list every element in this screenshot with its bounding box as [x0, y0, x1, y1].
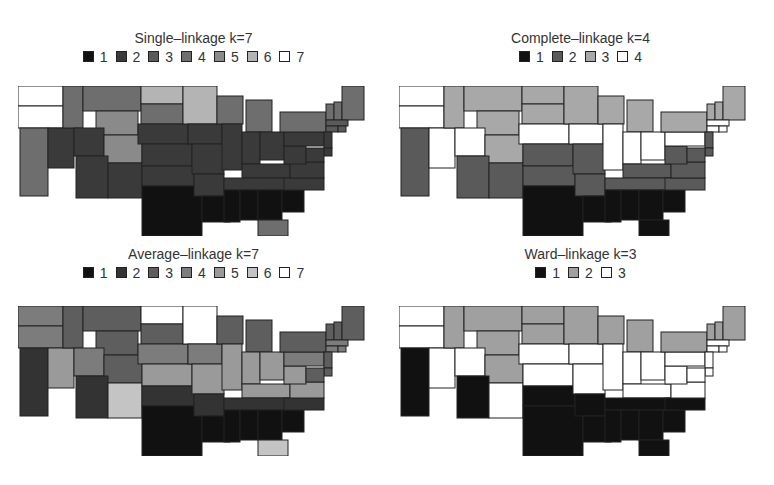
legend-item: 2	[552, 49, 577, 65]
state-ny	[661, 332, 707, 352]
state-tx	[523, 186, 583, 236]
state-sd	[141, 324, 183, 344]
legend-item: 3	[148, 49, 173, 65]
state-me	[723, 306, 745, 340]
legend-item: 1	[535, 265, 560, 281]
legend-swatch	[552, 51, 563, 62]
state-ca	[20, 128, 48, 196]
state-md	[306, 148, 324, 162]
state-mi	[246, 320, 272, 352]
state-mt	[464, 306, 522, 331]
state-mt	[83, 86, 141, 111]
state-sd	[522, 324, 564, 344]
state-oh	[260, 352, 284, 380]
state-nd	[141, 306, 183, 324]
state-sd	[141, 104, 183, 124]
state-il	[603, 344, 623, 390]
state-ct	[326, 126, 338, 132]
state-ny	[280, 112, 326, 132]
state-nj	[705, 132, 713, 148]
panel-title: Ward–linkage k=3	[387, 246, 774, 262]
state-ky	[623, 164, 671, 178]
state-ks	[142, 364, 192, 386]
state-ms	[605, 190, 621, 222]
state-ar	[194, 394, 224, 416]
legend-item: 3	[601, 265, 626, 281]
state-wv	[284, 366, 306, 384]
state-in	[623, 352, 641, 384]
legend-item: 4	[181, 265, 206, 281]
state-ms	[224, 190, 240, 222]
state-id	[444, 306, 464, 348]
state-sd	[522, 104, 564, 124]
legend-label: 2	[133, 49, 141, 65]
state-al	[621, 410, 639, 440]
state-md	[687, 368, 705, 382]
state-id	[444, 86, 464, 128]
legend-label: 5	[231, 49, 239, 65]
state-wi	[217, 96, 243, 124]
legend-label: 3	[165, 49, 173, 65]
state-nm	[108, 383, 142, 418]
state-ut	[455, 128, 485, 156]
legend: 1234567	[0, 265, 387, 281]
legend-item: 1	[83, 49, 108, 65]
legend-item: 2	[116, 265, 141, 281]
state-or	[399, 106, 444, 128]
state-ne	[138, 344, 188, 364]
legend-label: 5	[231, 265, 239, 281]
state-mo	[192, 364, 224, 394]
state-oh	[641, 352, 665, 380]
legend-label: 4	[634, 49, 642, 65]
state-ne	[519, 124, 569, 144]
state-ar	[194, 174, 224, 196]
state-nv	[48, 128, 74, 168]
state-tx	[142, 186, 202, 236]
state-mn	[183, 86, 217, 124]
state-wv	[665, 146, 687, 164]
legend-label: 2	[569, 49, 577, 65]
state-fl	[258, 220, 288, 236]
legend-label: 3	[165, 265, 173, 281]
state-ny	[661, 112, 707, 132]
legend-label: 7	[296, 265, 304, 281]
state-vt	[707, 104, 715, 120]
legend-label: 1	[552, 265, 560, 281]
state-wv	[665, 366, 687, 384]
state-nh	[334, 102, 342, 120]
state-il	[222, 124, 242, 170]
state-ct	[707, 126, 719, 132]
state-wi	[598, 96, 624, 124]
state-sc	[282, 410, 304, 432]
state-md	[306, 368, 324, 382]
state-ok	[142, 386, 194, 406]
legend-swatch	[519, 51, 530, 62]
state-nd	[522, 86, 564, 104]
state-sc	[663, 410, 685, 432]
state-ms	[224, 410, 240, 442]
panel-title: Average–linkage k=7	[0, 246, 387, 262]
state-ne	[138, 124, 188, 144]
state-nv	[429, 348, 455, 388]
state-wa	[18, 86, 63, 106]
legend-swatch	[83, 267, 94, 278]
state-ia	[188, 344, 222, 364]
state-ca	[401, 348, 429, 416]
state-me	[723, 86, 745, 120]
state-de	[324, 148, 332, 156]
legend-item: 2	[568, 265, 593, 281]
legend: 123	[387, 265, 774, 281]
legend-swatch	[116, 51, 127, 62]
legend-label: 4	[198, 265, 206, 281]
legend-swatch	[148, 51, 159, 62]
legend-item: 2	[116, 49, 141, 65]
legend-label: 7	[296, 49, 304, 65]
state-tn	[605, 398, 671, 410]
state-ut	[455, 348, 485, 376]
state-az	[76, 156, 108, 198]
state-al	[240, 410, 258, 440]
state-vt	[326, 324, 334, 340]
state-oh	[260, 132, 284, 160]
legend-swatch	[116, 267, 127, 278]
legend-label: 6	[264, 49, 272, 65]
